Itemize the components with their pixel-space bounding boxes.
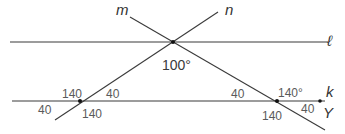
angle-left-lower-left: 40 [38,103,52,117]
label-k: k [326,83,335,100]
diagram-canvas: m n ℓ k Y 100° 140 40 40 140 40 140° 140… [0,0,345,134]
angle-left-upper-right: 40 [106,87,120,101]
line-m [130,17,325,130]
angle-right-lower-left: 140 [262,109,282,123]
angle-top-vertex: 100° [162,57,191,73]
angle-left-upper-left: 140 [62,87,82,101]
angle-left-lower-right: 140 [82,107,102,121]
angle-right-upper-left: 40 [231,87,245,101]
line-n [55,12,218,120]
angle-right-lower-right: 40 [301,102,315,116]
point-y [318,99,322,103]
label-n: n [225,1,233,18]
angle-right-upper-right: 140° [278,86,303,100]
label-m: m [116,1,129,18]
label-l: ℓ [326,32,333,49]
label-y: Y [323,104,334,121]
point-top-intersection [171,40,175,44]
geometry-diagram: m n ℓ k Y 100° 140 40 40 140 40 140° 140… [0,0,345,134]
